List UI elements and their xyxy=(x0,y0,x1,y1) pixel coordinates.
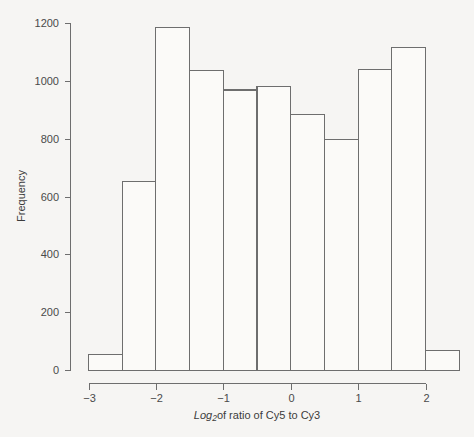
x-tick-label-2: 2 xyxy=(423,392,429,404)
histogram-figure: 0 200 400 600 800 1000 1200 Frequency −3… xyxy=(0,0,474,437)
y-tick-label-800: 800 xyxy=(41,133,59,145)
x-tick-label--1: −1 xyxy=(217,392,230,404)
x-tick-label--2: −2 xyxy=(150,392,163,404)
y-tick-label-400: 400 xyxy=(41,248,59,260)
y-tick-label-1000: 1000 xyxy=(35,75,59,87)
histogram-bar xyxy=(426,350,460,370)
histogram-bar xyxy=(156,28,190,371)
y-tick-label-0: 0 xyxy=(53,364,59,376)
y-tick-label-200: 200 xyxy=(41,306,59,318)
x-axis-title-rest: of ratio of Cy5 to Cy3 xyxy=(217,409,320,421)
histogram-bar xyxy=(257,87,291,371)
histogram-bar xyxy=(392,48,426,371)
histogram-bar xyxy=(190,71,224,371)
histogram-bar xyxy=(89,355,123,371)
x-axis-title-log: Log xyxy=(194,409,213,421)
histogram-bar xyxy=(358,69,392,370)
histogram-bar xyxy=(324,139,358,370)
y-tick-label-600: 600 xyxy=(41,191,59,203)
histogram-plot: 0 200 400 600 800 1000 1200 Frequency −3… xyxy=(0,0,474,437)
histogram-bar xyxy=(122,181,156,370)
x-tick-label-1: 1 xyxy=(355,392,361,404)
x-tick-label-0: 0 xyxy=(288,392,294,404)
histogram-bar xyxy=(291,115,325,371)
y-axis-title: Frequency xyxy=(15,170,27,222)
x-tick-label--3: −3 xyxy=(83,392,96,404)
y-tick-label-1200: 1200 xyxy=(35,17,59,29)
histogram-bar xyxy=(223,90,257,370)
